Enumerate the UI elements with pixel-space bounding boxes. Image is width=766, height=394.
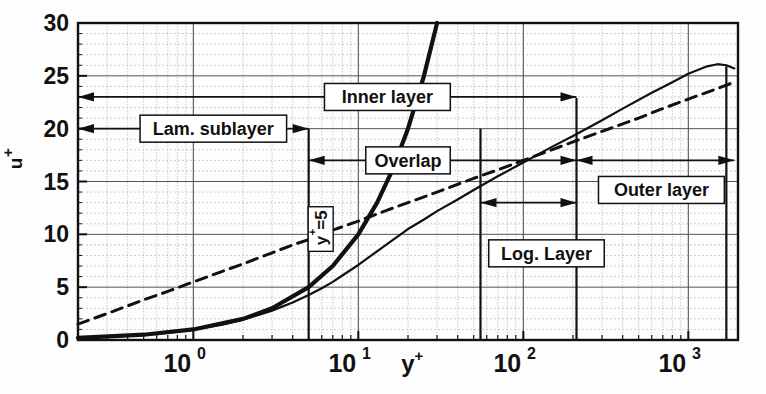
y-axis-title-text: u	[5, 158, 26, 170]
outer-layer-label-text: Outer layer	[614, 180, 709, 200]
y-plus-5-eq: =5	[312, 210, 331, 229]
y-tick-label: 15	[43, 169, 69, 195]
y-tick-label: 0	[56, 327, 69, 353]
chart-root: 302520151050 100101102103 u+y+ Inner lay…	[0, 0, 766, 394]
y-plus-5-label: y+=5	[306, 207, 334, 252]
x-tick-exponent: 3	[692, 345, 701, 362]
overlap-label-text: Overlap	[374, 151, 441, 171]
log-layer-label-text: Log. Layer	[501, 244, 592, 264]
y-tick-label: 10	[43, 221, 69, 247]
x-tick-label: 10	[163, 349, 191, 377]
boundary-layer-velocity-profile-chart: 302520151050 100101102103 u+y+ Inner lay…	[0, 0, 766, 394]
x-tick-label: 10	[493, 349, 521, 377]
x-axis-title-text: y	[401, 350, 415, 377]
y-tick-label: 30	[43, 10, 69, 36]
lam-sublayer-label-text: Lam. sublayer	[153, 119, 274, 139]
x-tick-label: 10	[658, 349, 686, 377]
x-tick-label: 10	[328, 349, 356, 377]
y-axis-title-sup: +	[0, 148, 16, 157]
inner-layer-label-text: Inner layer	[342, 87, 433, 107]
y-tick-label: 20	[43, 116, 69, 142]
x-tick-exponent: 2	[527, 345, 536, 362]
x-axis-title-sup: +	[415, 347, 424, 364]
y-plus-5-text: y	[312, 235, 331, 245]
x-tick-exponent: 1	[362, 345, 371, 362]
y-tick-label: 5	[56, 274, 69, 300]
x-tick-exponent: 0	[197, 345, 206, 362]
y-tick-label: 25	[43, 63, 69, 89]
